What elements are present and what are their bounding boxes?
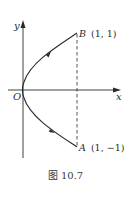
origin-label: O — [13, 91, 21, 102]
y-axis — [21, 20, 26, 158]
point-a-label: A (1, −1) — [78, 142, 124, 153]
point-b-label: B (1, 1) — [78, 28, 117, 39]
figure-10-7: y O x B (1, 1) A (1, −1) 图 10.7 — [0, 0, 131, 204]
x-axis-label: x — [116, 91, 122, 102]
x-axis — [8, 88, 121, 93]
y-axis-label: y — [13, 20, 20, 31]
y-axis-arrow-icon — [21, 20, 26, 28]
figure-caption: 图 10.7 — [0, 167, 131, 182]
